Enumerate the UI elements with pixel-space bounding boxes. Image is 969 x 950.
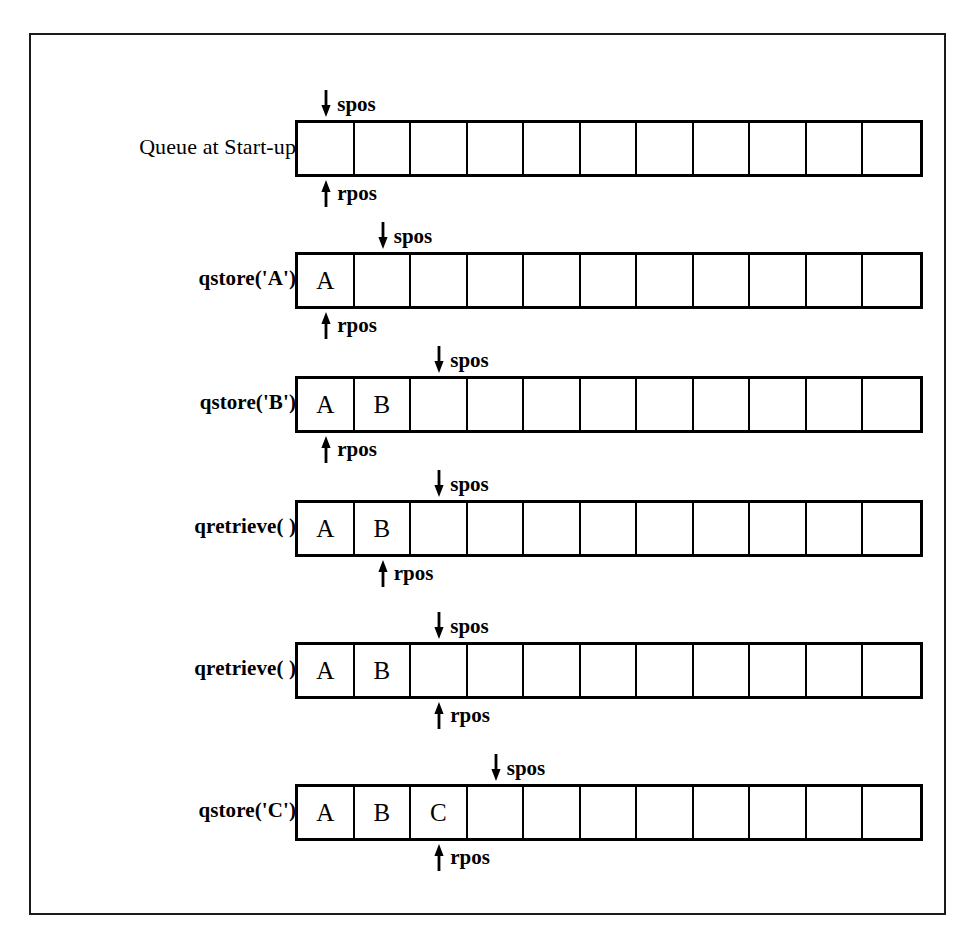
queue-cell [807,645,864,696]
rpos-pointer-label: rpos [337,315,377,336]
queue-row-label: qstore('B') [0,390,296,415]
queue-cell [637,123,694,174]
spos-pointer: spos [433,470,489,498]
spos-pointer-label: spos [337,94,376,115]
arrow-up-icon [377,559,389,587]
queue-row-label: qstore('C') [0,798,296,823]
arrow-up-icon [433,843,445,871]
arrow-down-icon [433,470,445,498]
spos-pointer-label: spos [507,758,546,779]
arrow-up-icon [320,311,332,339]
queue-cells: ABC [295,784,923,841]
queue-cell [637,379,694,430]
queue-cell: A [298,255,355,306]
queue-cell [581,379,638,430]
queue-cell [694,379,751,430]
queue-cell [694,123,751,174]
rpos-pointer: rpos [433,701,490,729]
queue-cell: A [298,645,355,696]
queue-cell [807,503,864,554]
queue-cell: C [411,787,468,838]
queue-cell: B [355,787,412,838]
queue-cell: B [355,503,412,554]
queue-cell: A [298,379,355,430]
spos-pointer-label: spos [450,474,489,495]
rpos-pointer-label: rpos [337,183,377,204]
spos-pointer: spos [490,754,546,782]
spos-pointer-label: spos [394,226,433,247]
queue-cell [581,645,638,696]
queue-cell [750,503,807,554]
rpos-pointer: rpos [320,179,377,207]
queue-cell: A [298,787,355,838]
queue-cell [694,503,751,554]
queue-cell [750,379,807,430]
arrow-up-icon [320,179,332,207]
queue-cell [524,787,581,838]
queue-cell [355,255,412,306]
queue-cell [581,503,638,554]
queue-cell [468,787,525,838]
queue-cell [524,123,581,174]
spos-pointer: spos [433,612,489,640]
queue-cell [863,787,920,838]
queue-cell [863,503,920,554]
queue-cell [750,645,807,696]
queue-cell [468,379,525,430]
queue-cell [355,123,412,174]
spos-pointer: spos [433,346,489,374]
queue-cell [807,123,864,174]
queue-cell [524,503,581,554]
queue-cell [637,787,694,838]
figure-page: Queue at Start-upsposrposqstore('A')Aspo… [0,0,969,950]
spos-pointer: spos [377,222,433,250]
queue-cell: A [298,503,355,554]
queue-cell [411,379,468,430]
rpos-pointer-label: rpos [450,847,490,868]
queue-cells: AB [295,376,923,433]
queue-row-label: qretrieve( ) [0,656,296,681]
queue-cell [750,787,807,838]
queue-cell [863,123,920,174]
queue-cell [411,123,468,174]
rpos-pointer: rpos [377,559,434,587]
arrow-up-icon [320,435,332,463]
queue-cell [524,255,581,306]
queue-cell [524,645,581,696]
queue-cell [411,255,468,306]
arrow-down-icon [433,346,445,374]
arrow-down-icon [377,222,389,250]
queue-cell [750,255,807,306]
rpos-pointer-label: rpos [337,439,377,460]
queue-cell [411,645,468,696]
queue-cells: AB [295,500,923,557]
rpos-pointer: rpos [433,843,490,871]
queue-cell [637,503,694,554]
queue-cells [295,120,923,177]
queue-cell [524,379,581,430]
arrow-down-icon [490,754,502,782]
queue-cell [468,123,525,174]
figure-frame: Queue at Start-upsposrposqstore('A')Aspo… [29,33,946,915]
spos-pointer-label: spos [450,350,489,371]
queue-cell: B [355,645,412,696]
queue-cell [750,123,807,174]
queue-cell [581,123,638,174]
queue-cell [581,787,638,838]
queue-cell: B [355,379,412,430]
queue-row-label: qretrieve( ) [0,514,296,539]
arrow-down-icon [320,90,332,118]
spos-pointer: spos [320,90,376,118]
queue-cell [411,503,468,554]
queue-cell [807,379,864,430]
queue-cell [468,645,525,696]
queue-cell [863,379,920,430]
queue-cell [694,787,751,838]
queue-cell [468,503,525,554]
spos-pointer-label: spos [450,616,489,637]
queue-cell [807,255,864,306]
queue-cell [863,255,920,306]
queue-row-label: qstore('A') [0,266,296,291]
queue-cell [863,645,920,696]
queue-cells: A [295,252,923,309]
